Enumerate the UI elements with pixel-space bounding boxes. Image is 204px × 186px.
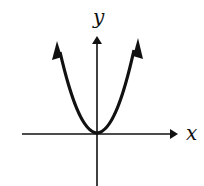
curve-right-arrowhead [133, 38, 143, 59]
curve-left-arrowhead [52, 41, 62, 60]
x-axis-label: x [186, 121, 197, 145]
parabola-graph: y x [0, 0, 204, 186]
y-axis-label: y [92, 5, 105, 29]
